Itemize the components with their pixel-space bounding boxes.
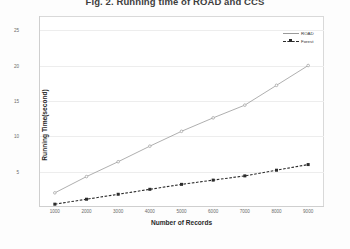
data-point-forest <box>307 163 310 166</box>
x-tick-label: 4000 <box>133 209 167 214</box>
data-point-forest <box>117 193 120 196</box>
x-tick-label: 9000 <box>291 209 325 214</box>
plot-area <box>39 16 324 207</box>
data-point-forest <box>212 179 215 182</box>
legend-line-icon-forest <box>283 38 299 44</box>
data-point-road <box>307 64 310 67</box>
series-line-road <box>55 66 308 193</box>
data-point-road <box>85 175 88 178</box>
x-tick-label: 3000 <box>101 209 135 214</box>
data-point-forest <box>180 183 183 186</box>
legend-label-forest: Forest <box>301 39 313 44</box>
x-tick-label: 2000 <box>70 209 104 214</box>
data-point-road <box>212 117 215 120</box>
x-tick-label: 5000 <box>165 209 199 214</box>
x-tick-label: 8000 <box>260 209 294 214</box>
legend-item-road[interactable]: ROAD <box>283 29 343 37</box>
chart-legend: ROAD Forest <box>283 29 343 45</box>
data-point-forest <box>85 198 88 201</box>
x-tick-label: 1000 <box>38 209 72 214</box>
data-point-road <box>275 84 278 87</box>
series-layer <box>39 16 324 207</box>
x-tick-label: 7000 <box>228 209 262 214</box>
x-tick-label: 6000 <box>196 209 230 214</box>
y-tick-label: 20 <box>0 63 19 68</box>
data-point-road <box>54 192 57 195</box>
legend-line-icon-road <box>283 30 299 36</box>
y-tick-label: 10 <box>0 134 19 139</box>
y-tick-label: 5 <box>0 169 19 174</box>
y-tick-label: 25 <box>0 28 19 33</box>
y-tick-label: 15 <box>0 98 19 103</box>
data-point-forest <box>53 203 56 206</box>
figure-title: Fig. 2. Running time of ROAD and CCS <box>0 0 350 7</box>
figure-container: Fig. 2. Running time of ROAD and CCS 510… <box>0 0 350 249</box>
legend-label-road: ROAD <box>301 31 314 36</box>
data-point-road <box>149 145 152 148</box>
data-point-forest <box>243 174 246 177</box>
data-point-road <box>180 130 183 133</box>
y-axis-title: Running Time(second) <box>41 89 48 160</box>
x-axis-title: Number of Records <box>39 219 324 226</box>
data-point-road <box>117 160 120 163</box>
data-point-forest <box>275 169 278 172</box>
data-point-road <box>244 104 247 107</box>
data-point-forest <box>148 188 151 191</box>
legend-item-forest[interactable]: Forest <box>283 37 343 45</box>
